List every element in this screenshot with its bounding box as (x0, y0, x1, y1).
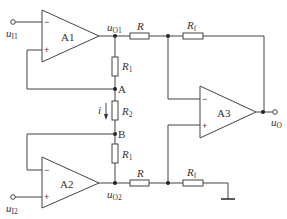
a3-plus-sign: + (202, 121, 207, 131)
circuit-diagram: − + A1 − + A2 − + A3 (0, 0, 287, 219)
input-terminal-ui2 (11, 195, 16, 200)
resistor-r-top (130, 33, 149, 39)
label-node-a: A (118, 83, 126, 95)
node-uo2 (113, 181, 117, 185)
label-r1-top: R1 (121, 60, 133, 74)
label-r1-bottom: R1 (121, 148, 133, 162)
label-node-b: B (118, 128, 125, 140)
a2-label: A2 (60, 178, 73, 190)
a2-plus-sign: + (44, 192, 49, 202)
a1-label: A1 (61, 31, 74, 43)
label-r-top: R (136, 20, 144, 32)
label-ui1: uI1 (6, 27, 18, 41)
label-ui2: uI2 (6, 202, 18, 216)
resistor-r2 (112, 101, 118, 120)
label-uo2: uO2 (107, 188, 122, 202)
resistor-rf-bottom (183, 180, 203, 186)
resistor-rf-top (183, 33, 203, 39)
a3-label: A3 (217, 107, 231, 119)
node-uo (261, 110, 265, 114)
a1-minus-sign: − (44, 17, 49, 27)
label-current-i: i (98, 104, 101, 116)
output-terminal-uo (273, 110, 278, 115)
node-a (113, 87, 117, 91)
resistor-r1-top (112, 57, 118, 76)
label-rf-top: Rf (186, 19, 197, 33)
label-r2: R2 (121, 105, 133, 119)
input-terminal-ui1 (11, 20, 16, 25)
arrow-head-icon (104, 114, 108, 120)
resistor-r-bottom (130, 180, 149, 186)
label-rf-bottom: Rf (186, 166, 197, 180)
node-a3-plus (166, 181, 170, 185)
a1-plus-sign: + (44, 45, 49, 55)
resistor-r1-bottom (112, 144, 118, 163)
a3-minus-sign: − (202, 94, 207, 104)
label-uo1: uO1 (107, 21, 122, 35)
label-uo: uO (271, 116, 283, 130)
a2-minus-sign: − (44, 165, 49, 175)
label-r-bottom: R (136, 167, 144, 179)
